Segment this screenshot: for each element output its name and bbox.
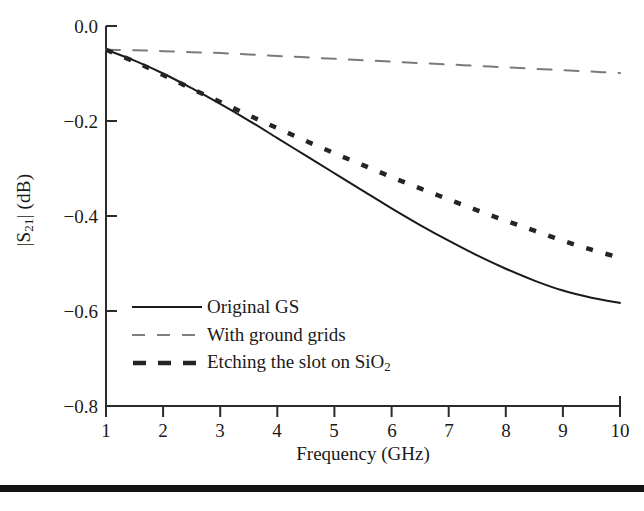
x-tick-label: 9 xyxy=(543,421,583,440)
legend-item-with-ground-grids: With ground grids xyxy=(131,321,461,349)
x-axis-ticks xyxy=(106,406,620,417)
y-tick-label: −0.8 xyxy=(42,397,98,416)
y-axis-ticks xyxy=(106,26,117,406)
legend-label-original-gs: Original GS xyxy=(203,296,299,318)
y-axis-title-subscript: 21 xyxy=(21,218,36,231)
x-tick-label: 2 xyxy=(143,421,183,440)
page-divider-rule xyxy=(0,485,644,492)
dashed-line-icon xyxy=(131,328,203,342)
legend: Original GS With ground grids Etching th… xyxy=(131,293,461,377)
y-tick-label: 0.0 xyxy=(42,17,98,36)
x-tick-label: 10 xyxy=(600,421,640,440)
x-tick-label: 4 xyxy=(257,421,297,440)
x-axis-title: Frequency (GHz) xyxy=(106,443,620,465)
legend-label-etching-base: Etching the slot on SiO xyxy=(207,351,384,372)
y-tick-label: −0.4 xyxy=(42,207,98,226)
x-tick-label: 3 xyxy=(200,421,240,440)
y-axis-title-wrap: |S21| (dB) xyxy=(0,150,50,290)
figure-s21-vs-frequency: 0.0 −0.2 −0.4 −0.6 −0.8 1 2 3 4 5 6 7 8 … xyxy=(0,0,644,511)
y-tick-label: −0.2 xyxy=(42,112,98,131)
legend-label-etching-slot-sio2: Etching the slot on SiO2 xyxy=(203,351,391,375)
x-tick-label: 6 xyxy=(372,421,412,440)
series-line-1 xyxy=(106,50,620,73)
solid-line-icon xyxy=(131,300,203,314)
y-tick-label: −0.6 xyxy=(42,302,98,321)
x-tick-label: 5 xyxy=(314,421,354,440)
series-line-0 xyxy=(106,50,620,303)
series-line-2 xyxy=(106,50,620,258)
y-axis-title-tail: | (dB) xyxy=(13,174,34,219)
x-tick-label: 1 xyxy=(86,421,126,440)
y-axis-title-base: |S xyxy=(13,232,34,247)
legend-item-original-gs: Original GS xyxy=(131,293,461,321)
legend-item-etching-slot-sio2: Etching the slot on SiO2 xyxy=(131,349,461,377)
x-tick-label: 8 xyxy=(486,421,526,440)
legend-label-etching-subscript: 2 xyxy=(384,359,390,374)
x-tick-label: 7 xyxy=(429,421,469,440)
data-series-group xyxy=(106,50,620,303)
legend-label-with-ground-grids: With ground grids xyxy=(203,324,346,346)
thick-dashed-line-icon xyxy=(131,356,203,370)
y-axis-title: |S21| (dB) xyxy=(13,140,37,280)
